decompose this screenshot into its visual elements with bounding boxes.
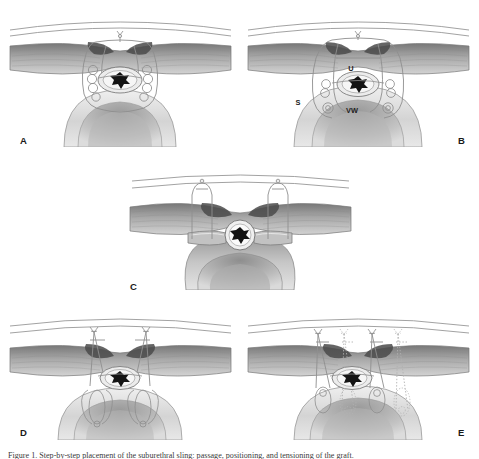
- panel-c: [128, 165, 353, 290]
- panel-a-illustration: [8, 12, 233, 147]
- panel-letter-b: B: [458, 136, 465, 146]
- urethra: [98, 67, 142, 93]
- urethra: [332, 367, 372, 390]
- suture-bow-left-solid: [314, 329, 322, 334]
- fascia-layer: [132, 175, 349, 188]
- suture-bow-right: [142, 327, 150, 332]
- vaginal-wall: [294, 386, 422, 440]
- urethra: [225, 220, 255, 250]
- vaginal-wall: [58, 388, 182, 440]
- panel-b: U S VW: [246, 12, 471, 147]
- label-urethra: U: [348, 64, 353, 73]
- panel-e: [246, 310, 471, 440]
- urethra: [100, 367, 140, 390]
- suture-knot: [117, 31, 123, 38]
- figure-caption: Figure 1. Step-by-step placement of the …: [8, 451, 474, 459]
- suture-bow-right-solid: [368, 329, 376, 334]
- panel-letter-e: E: [458, 428, 465, 438]
- panel-b-illustration: U S VW: [246, 12, 471, 147]
- panel-e-illustration: [246, 310, 471, 440]
- suture-bow-left: [90, 327, 98, 332]
- label-sling: S: [296, 98, 301, 107]
- fascia-layer: [248, 319, 469, 333]
- suture-knot: [355, 31, 361, 38]
- panel-d: [8, 310, 233, 440]
- label-vaginal-wall: VW: [346, 106, 358, 115]
- urethra: [337, 72, 379, 97]
- panel-c-illustration: [128, 165, 353, 290]
- dotted-suture-bow-right: [394, 329, 402, 334]
- dotted-suture-bow-left: [340, 329, 348, 334]
- panel-a: [8, 12, 233, 147]
- panel-letter-d: D: [20, 428, 27, 438]
- figure-root: A: [0, 0, 479, 459]
- panel-letter-c: C: [130, 282, 137, 292]
- panel-letter-a: A: [20, 136, 27, 146]
- vaginal-wall: [64, 90, 176, 147]
- fascia-layer: [10, 319, 231, 333]
- panel-d-illustration: [8, 310, 233, 440]
